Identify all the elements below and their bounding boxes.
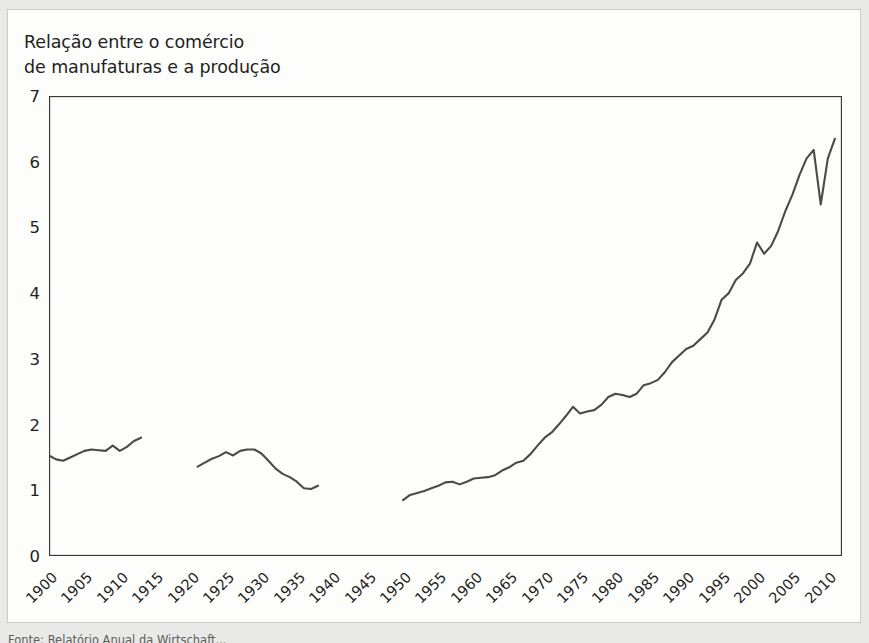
x-axis-tick-label: 1915 bbox=[123, 569, 167, 613]
y-axis-tick-label: 4 bbox=[30, 284, 41, 303]
x-axis-tick-label: 1950 bbox=[370, 569, 414, 613]
x-axis-tick-label: 2010 bbox=[795, 569, 839, 613]
x-axis-tick-label: 2005 bbox=[760, 569, 804, 613]
x-axis-tick-label: 1935 bbox=[264, 569, 308, 613]
x-axis-tick-label: 1940 bbox=[300, 569, 344, 613]
line-chart-svg bbox=[49, 96, 842, 556]
x-axis-tick-label: 1990 bbox=[654, 569, 698, 613]
x-axis-tick-label: 1910 bbox=[87, 569, 131, 613]
plot-area: 01234567 bbox=[49, 96, 842, 556]
x-axis-tick-label: 1930 bbox=[229, 569, 273, 613]
chart-title: Relação entre o comércio de manufaturas … bbox=[24, 30, 281, 80]
x-axis-tick-label: 1960 bbox=[441, 569, 485, 613]
x-axis-tick-label: 1970 bbox=[512, 569, 556, 613]
x-axis-tick-label: 1980 bbox=[583, 569, 627, 613]
x-axis-tick-label: 1925 bbox=[193, 569, 237, 613]
x-axis-tick-label: 1955 bbox=[406, 569, 450, 613]
x-axis-tick-label: 1985 bbox=[618, 569, 662, 613]
y-axis-tick-label: 6 bbox=[30, 152, 41, 171]
x-axis-labels: 1900190519101915192019251930193519401945… bbox=[49, 556, 842, 626]
axis-lines bbox=[50, 97, 842, 556]
x-axis-tick-label: 1965 bbox=[477, 569, 521, 613]
y-axis-tick-label: 0 bbox=[30, 547, 41, 566]
y-axis-tick-label: 2 bbox=[30, 415, 41, 434]
source-note: Fonte: Relatório Anual da Wirtschaft... bbox=[8, 633, 708, 643]
x-axis-tick-label: 1975 bbox=[547, 569, 591, 613]
y-axis-tick-label: 1 bbox=[30, 481, 41, 500]
x-axis-tick-label: 1920 bbox=[158, 569, 202, 613]
x-axis-tick-label: 1900 bbox=[16, 569, 60, 613]
y-axis-tick-label: 3 bbox=[30, 349, 41, 368]
y-axis-tick-label: 7 bbox=[30, 87, 41, 106]
x-axis-tick-label: 1905 bbox=[52, 569, 96, 613]
figure-card: Relação entre o comércio de manufaturas … bbox=[7, 9, 861, 623]
scanned-page-background: Relação entre o comércio de manufaturas … bbox=[0, 0, 869, 643]
x-axis-tick-label: 1995 bbox=[689, 569, 733, 613]
y-axis-tick-label: 5 bbox=[30, 218, 41, 237]
x-axis-tick-label: 2000 bbox=[725, 569, 769, 613]
plot-inner bbox=[49, 96, 842, 556]
x-axis-tick-label: 1945 bbox=[335, 569, 379, 613]
data-series-lines bbox=[49, 139, 835, 500]
